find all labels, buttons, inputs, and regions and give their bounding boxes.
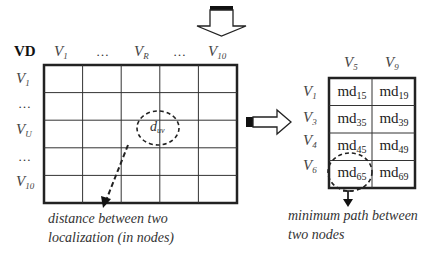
row-header-ellipsis-2: …	[18, 150, 31, 163]
highlight-cell-duv: duv	[150, 119, 165, 135]
row-header-ellipsis-1: …	[18, 97, 31, 110]
cell-md39: md39	[375, 111, 413, 128]
row-header-v3: V3	[303, 110, 317, 127]
row-header-v1: V1	[16, 71, 30, 88]
path-caption: minimum path between two nodes	[288, 206, 418, 244]
distance-caption: distance between two localization (in no…	[48, 209, 174, 247]
cell-md35: md35	[333, 111, 371, 128]
col-header-v10: V10	[208, 44, 226, 61]
cell-md45: md45	[333, 138, 371, 155]
row-header-v1: V1	[303, 84, 317, 101]
row-header-v10: V10	[16, 174, 34, 191]
cell-md65: md65	[333, 165, 371, 182]
col-header-ellipsis-2: …	[173, 45, 186, 58]
right-arrow-icon	[246, 110, 291, 134]
col-header-v9: V9	[385, 55, 399, 72]
col-header-ellipsis-1: …	[96, 45, 109, 58]
col-header-vr: VR	[134, 44, 149, 61]
row-header-vu: VU	[16, 122, 32, 139]
cell-md19: md19	[375, 84, 413, 101]
down-arrow-icon	[197, 6, 246, 36]
col-header-v5: V5	[344, 55, 358, 72]
pointer-arrow-right	[343, 191, 353, 207]
cell-md69: md69	[375, 165, 413, 182]
col-header-v1: V1	[54, 44, 68, 61]
cell-md49: md49	[375, 138, 413, 155]
row-header-v4: V4	[303, 133, 317, 150]
row-header-v6: V6	[303, 158, 317, 175]
distance-matrix-grid	[44, 65, 237, 203]
corner-label: VD	[14, 44, 36, 59]
cell-md15: md15	[333, 84, 371, 101]
